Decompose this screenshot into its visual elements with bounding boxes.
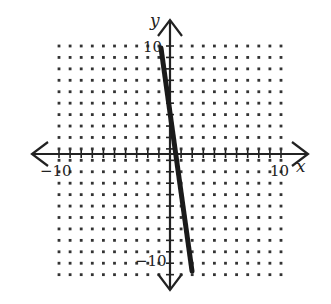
x-min-label: −10 xyxy=(40,164,72,179)
y-max-label: 10 xyxy=(143,40,162,55)
x-max-label: 10 xyxy=(270,164,289,179)
y-min-label: −10 xyxy=(135,254,167,269)
plotted-line xyxy=(161,48,192,271)
y-axis-label: y xyxy=(150,12,160,29)
x-axis-label: x xyxy=(296,158,306,175)
